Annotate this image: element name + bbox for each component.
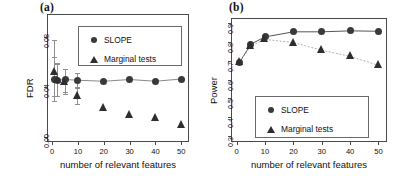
panel-a-legend: SLOPEMarginal tests: [78, 26, 182, 66]
legend-label: Marginal tests: [281, 124, 333, 134]
error-bar-cap: [55, 96, 60, 97]
data-point-marginal-tests: [235, 57, 243, 65]
panel-a: (a) FDR number of relevant features 0102…: [0, 0, 199, 190]
error-bar-cap: [52, 40, 57, 41]
triangle-marker-icon: [264, 126, 278, 133]
data-point-marginal-tests: [177, 120, 185, 128]
data-point-marginal-tests: [99, 103, 107, 111]
circle-marker-icon: [264, 107, 278, 113]
legend-label: SLOPE: [281, 105, 309, 115]
data-point-slope: [178, 76, 185, 83]
data-point-slope: [152, 78, 159, 85]
error-bar-cap: [75, 104, 80, 105]
error-bar-cap: [55, 64, 60, 65]
error-bar-cap: [63, 94, 68, 95]
data-point-marginal-tests: [317, 45, 325, 53]
data-point-marginal-tests: [289, 38, 297, 46]
legend-label: Marginal tests: [104, 54, 156, 64]
panel-b-series-lines: [199, 0, 398, 190]
panel-b: (b) Power number of relevant features 01…: [199, 0, 398, 190]
data-point-marginal-tests: [260, 34, 268, 42]
legend-entry: Marginal tests: [87, 54, 156, 64]
figure-root: (a) FDR number of relevant features 0102…: [0, 0, 398, 190]
error-bar-cap: [63, 69, 68, 70]
circle-marker-icon: [87, 37, 101, 43]
legend-entry: SLOPE: [264, 105, 309, 115]
legend-label: SLOPE: [104, 35, 132, 45]
data-point-marginal-tests: [60, 77, 68, 85]
error-bar-cap: [75, 87, 80, 88]
data-point-marginal-tests: [151, 113, 159, 121]
error-bar-cap: [52, 101, 57, 102]
data-point-slope: [375, 28, 382, 35]
error-bar-cap: [75, 73, 80, 74]
data-point-marginal-tests: [50, 67, 58, 75]
data-point-marginal-tests: [346, 51, 354, 59]
data-point-marginal-tests: [125, 110, 133, 118]
data-point-marginal-tests: [246, 41, 254, 49]
triangle-marker-icon: [87, 56, 101, 63]
data-point-marginal-tests: [374, 60, 382, 68]
legend-entry: Marginal tests: [264, 124, 333, 134]
legend-entry: SLOPE: [87, 35, 132, 45]
data-point-slope: [347, 27, 354, 34]
data-point-marginal-tests: [73, 91, 81, 99]
series-line: [240, 39, 379, 65]
panel-b-legend: SLOPEMarginal tests: [255, 96, 369, 138]
